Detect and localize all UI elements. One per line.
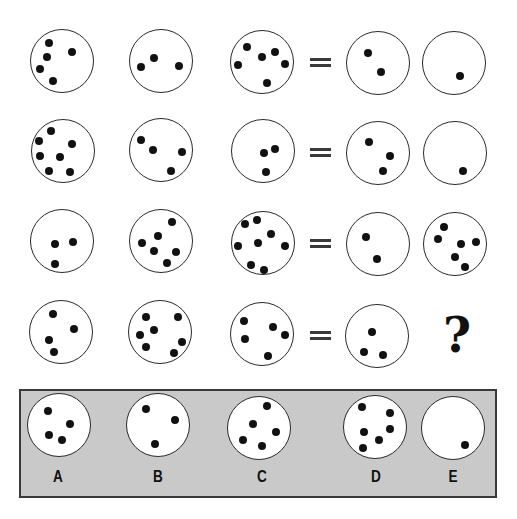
row-4-circle-4 [345, 304, 409, 368]
dot-icon [171, 416, 179, 424]
dot-icon [263, 79, 271, 87]
equals-sign-icon [310, 148, 331, 157]
row-1-circle-4 [346, 31, 410, 95]
dot-icon [154, 232, 162, 240]
option-a-circle[interactable] [27, 393, 91, 457]
dot-icon [51, 240, 59, 248]
dot-icon [44, 407, 52, 415]
dot-icon [150, 54, 158, 62]
row-3-circle-4 [346, 212, 410, 276]
dot-icon [136, 331, 144, 339]
dot-icon [262, 168, 270, 176]
dot-icon [281, 331, 289, 339]
dot-icon [68, 48, 76, 56]
dot-icon [249, 420, 257, 428]
option-d-circle[interactable] [343, 395, 407, 459]
dot-icon [272, 428, 280, 436]
dot-icon [269, 323, 277, 331]
dot-icon [271, 48, 279, 56]
dot-icon [362, 233, 370, 241]
dot-icon [451, 253, 459, 261]
dot-icon [45, 167, 53, 175]
dot-icon [434, 235, 442, 243]
option-e-circle[interactable] [421, 396, 485, 460]
equals-sign-icon [310, 239, 331, 248]
dot-icon [360, 428, 368, 436]
dot-icon [45, 336, 53, 344]
dot-icon [36, 65, 44, 73]
dot-icon [168, 218, 176, 226]
dot-icon [149, 146, 157, 154]
dot-icon [241, 335, 249, 343]
dot-icon [377, 68, 385, 76]
dot-icon [461, 263, 469, 271]
dot-icon [151, 440, 159, 448]
dot-icon [170, 349, 178, 357]
row-1-circle-5 [422, 31, 486, 95]
dot-icon [386, 409, 394, 417]
dot-icon [45, 39, 53, 47]
dot-icon [459, 167, 467, 175]
dot-icon [150, 326, 158, 334]
row-4-circle-1 [29, 300, 93, 364]
dot-icon [360, 348, 368, 356]
option-d-label[interactable]: D [371, 467, 381, 487]
dot-icon [368, 328, 376, 336]
equals-sign-icon [310, 331, 331, 340]
dot-icon [234, 242, 242, 250]
dot-icon [365, 138, 373, 146]
dot-icon [461, 441, 469, 449]
dot-icon [260, 149, 268, 157]
dot-icon [440, 223, 448, 231]
option-c-circle[interactable] [227, 396, 291, 460]
dot-icon [456, 72, 464, 80]
dot-icon [263, 402, 271, 410]
dot-icon [379, 351, 387, 359]
dot-icon [379, 167, 387, 175]
option-b-label[interactable]: B [153, 467, 163, 487]
dot-icon [258, 53, 266, 61]
dot-icon [36, 152, 44, 160]
row-2-circle-4 [346, 121, 410, 185]
dot-icon [234, 61, 242, 69]
dot-icon [150, 247, 158, 255]
dot-icon [267, 230, 275, 238]
question-mark: ? [443, 311, 471, 359]
dot-icon [258, 442, 266, 450]
dot-icon [386, 425, 394, 433]
dot-icon [68, 140, 76, 148]
dot-icon [142, 405, 150, 413]
dot-icon [364, 49, 372, 57]
dot-icon [281, 242, 289, 250]
dot-icon [138, 239, 146, 247]
option-b-circle[interactable] [126, 393, 190, 457]
row-2-circle-1 [31, 119, 95, 183]
dot-icon [271, 145, 279, 153]
option-e-label[interactable]: E [448, 467, 457, 487]
dot-icon [254, 239, 262, 247]
dot-icon [240, 317, 248, 325]
dot-icon [45, 431, 53, 439]
dot-icon [49, 77, 57, 85]
dot-icon [163, 259, 171, 267]
dot-icon [239, 436, 247, 444]
dot-icon [359, 444, 367, 452]
dot-icon [472, 238, 480, 246]
dot-icon [178, 338, 186, 346]
dot-icon [66, 168, 74, 176]
dot-icon [386, 152, 394, 160]
dot-icon [142, 343, 150, 351]
dot-icon [35, 137, 43, 145]
option-a-label[interactable]: A [53, 467, 63, 487]
dot-icon [50, 348, 58, 356]
dot-icon [66, 420, 74, 428]
dot-icon [247, 261, 255, 269]
option-c-label[interactable]: C [257, 467, 267, 487]
dot-icon [142, 313, 150, 321]
dot-icon [243, 43, 251, 51]
dot-icon [58, 436, 66, 444]
dot-icon [43, 53, 51, 61]
row-1-circle-1 [30, 29, 94, 93]
row-3-circle-1 [30, 209, 94, 273]
dot-icon [174, 313, 182, 321]
